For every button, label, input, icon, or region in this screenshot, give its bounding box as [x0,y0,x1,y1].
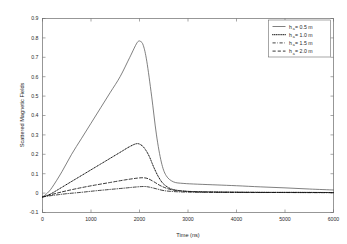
legend-entry-value-1: = 1.0 m [295,32,312,38]
y-tick-label: 0.4 [31,112,38,118]
y-tick-label: 0 [36,190,39,196]
legend-entry-value-2: = 1.5 m [295,40,312,46]
x-tick-label: 2000 [134,216,146,222]
y-axis-title: Scattered Magnetic Fields [19,82,25,147]
y-tick-label: 0.2 [31,151,38,157]
legend-entry-label-2: h [289,40,292,46]
x-tick-label: 4000 [231,216,243,222]
y-tick-label: 0.5 [31,93,38,99]
legend-entry-value-0: = 0.5 m [295,24,312,30]
x-tick-label: 3000 [182,216,194,222]
y-tick-label: 0.7 [31,54,38,60]
data-series-curves [43,41,334,197]
y-tick-labels: -0.100.10.20.30.40.50.60.70.80.9 [30,15,39,215]
series-line-0 [43,41,334,197]
legend-entry-label-0: h [289,24,292,30]
legend-entry-value-3: = 2.0 m [295,48,312,54]
x-tick-labels: 0100020003000400050006000 [41,216,339,222]
series-line-3 [43,178,334,197]
legend-entry-label-3: h [289,48,292,54]
legend-entry-label-1: h [289,32,292,38]
y-tick-label: 0.6 [31,74,38,80]
x-tick-label: 0 [41,216,44,222]
scattered-magnetic-fields-line-chart: -0.100.10.20.30.40.50.60.70.80.9 0100020… [0,0,347,244]
x-tick-label: 5000 [279,216,291,222]
series-line-1 [43,144,334,197]
y-tick-label: -0.1 [30,209,39,215]
y-tick-label: 0.1 [31,171,38,177]
y-tick-label: 0.3 [31,132,38,138]
chart-legend: ha = 0.5 mha = 1.0 mha = 1.5 mha = 2.0 m [269,20,331,57]
y-tick-label: 0.9 [31,15,38,21]
x-axis-title: Time (ns) [176,232,200,238]
x-tick-label: 6000 [328,216,340,222]
y-tick-label: 0.8 [31,35,38,41]
x-tick-label: 1000 [85,216,97,222]
chart-figure: -0.100.10.20.30.40.50.60.70.80.9 0100020… [0,0,347,244]
